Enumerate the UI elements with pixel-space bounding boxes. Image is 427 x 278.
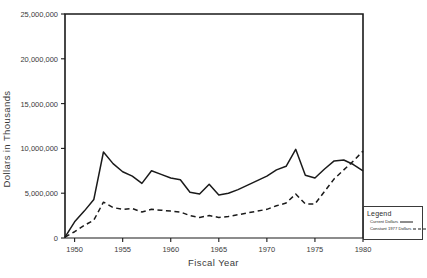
x-tick-label: 1960 (162, 245, 179, 254)
legend-swatch-solid (400, 220, 413, 224)
legend-entry: Constant 1977 Dollars (367, 226, 419, 232)
data-series-lines (65, 149, 363, 237)
legend-entry-label: Constant 1977 Dollars (370, 226, 411, 232)
y-tick-label: 15,000,000 (0, 99, 58, 108)
chart-figure: Dollars in Thousands Fiscal Year 05,000,… (0, 0, 427, 278)
y-tick-label: 5,000,000 (0, 189, 58, 198)
legend: Legend Current DollarsConstant 1977 Doll… (363, 206, 423, 240)
x-tick-label: 1955 (114, 245, 131, 254)
legend-entries: Current DollarsConstant 1977 Dollars (367, 219, 419, 232)
y-tick-label: 10,000,000 (0, 144, 58, 153)
y-tick-label: 20,000,000 (0, 54, 58, 63)
legend-entry: Current Dollars (367, 219, 419, 225)
x-tick-label: 1965 (210, 245, 227, 254)
legend-swatch-dashed (413, 227, 426, 231)
y-tick-label: 25,000,000 (0, 10, 58, 19)
axis-frame (65, 14, 363, 238)
series-line-dashed (65, 151, 363, 237)
legend-entry-label: Current Dollars (370, 219, 398, 225)
x-tick-label: 1970 (259, 245, 276, 254)
x-tick-label: 1980 (355, 245, 372, 254)
series-line-solid (65, 149, 363, 237)
x-tick-label: 1975 (307, 245, 324, 254)
tick-marks (61, 14, 363, 242)
x-tick-label: 1950 (66, 245, 83, 254)
legend-title: Legend (367, 209, 419, 218)
x-axis-title: Fiscal Year (0, 257, 427, 268)
y-tick-label: 0 (0, 234, 58, 243)
